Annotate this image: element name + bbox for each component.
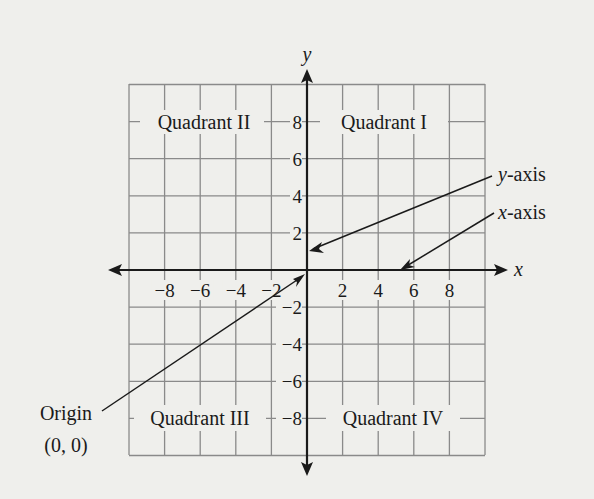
y-tick-label: −8 [282, 408, 302, 429]
quadrant-iv-label: Quadrant IV [343, 407, 444, 429]
x-tick-label: 2 [338, 280, 348, 301]
quadrant-i-label: Quadrant I [341, 111, 427, 133]
y-tick-label: 8 [293, 112, 303, 133]
x-tick-label: 4 [373, 280, 383, 301]
origin-callout-label: Origin [40, 402, 92, 425]
y-axis-callout-line [313, 176, 492, 249]
origin-callout-arrow-icon [293, 274, 305, 287]
y-tick-label: −4 [282, 334, 303, 355]
y-tick-label: 6 [293, 149, 303, 170]
y-tick-label: 2 [293, 223, 303, 244]
x-tick-labels: −8−6−4−22468 [152, 280, 456, 301]
x-axis-label: x [513, 258, 523, 280]
coordinate-plane-diagram: y x −8−6−4−22468 8642−2−4−6−8 Quadrant I… [0, 0, 594, 499]
x-axis-callout-arrow-icon [400, 259, 415, 270]
x-tick-label: 8 [445, 280, 455, 301]
callout-arrowheads [293, 242, 415, 287]
y-axis-callout-label: y-axis [496, 163, 546, 186]
quadrant-iii-label: Quadrant III [150, 407, 249, 429]
quadrant-ii-label: Quadrant II [158, 111, 251, 133]
y-tick-label: −2 [282, 297, 302, 318]
x-tick-label: −8 [154, 280, 174, 301]
x-tick-label: −6 [190, 280, 210, 301]
origin-coords-label: (0, 0) [44, 434, 87, 457]
y-axis-callout-arrow-icon [309, 242, 324, 253]
x-tick-label: 6 [409, 280, 419, 301]
x-axis-callout-label: x-axis [497, 201, 546, 223]
y-tick-label: 4 [293, 186, 303, 207]
y-tick-label: −6 [282, 371, 302, 392]
y-axis-label: y [301, 43, 312, 66]
x-tick-label: −4 [226, 280, 247, 301]
